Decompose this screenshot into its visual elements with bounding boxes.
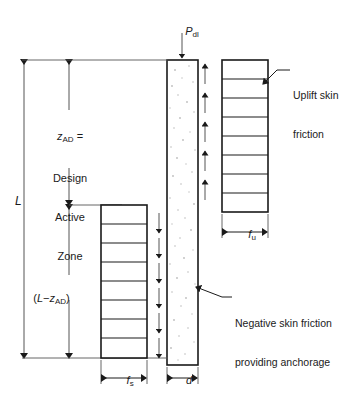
total-length-label: L [15, 195, 22, 208]
active-zone-desc-3: Zone [38, 250, 102, 263]
anchorage-length-label: (L−zAD) [21, 279, 70, 321]
dead-load-label: Pdl [173, 12, 199, 54]
negative-annotation-line-1: Negative skin friction [235, 317, 332, 330]
pile-diameter-label: d [168, 361, 198, 400]
negative-annotation-line-2: providing anchorage [235, 356, 332, 369]
uplift-annotation-line-2: friction [293, 128, 339, 141]
negative-annotation: Negative skin friction providing anchora… [235, 291, 332, 395]
uplift-friction-block [222, 60, 268, 212]
active-zone-label: zAD = Design Active Zone [38, 104, 102, 289]
active-zone-symbol-line: zAD = [38, 130, 102, 146]
anchorage-friction-block [101, 205, 147, 358]
leader-negative-annotation [196, 287, 232, 297]
active-zone-desc-1: Design [38, 172, 102, 185]
figure-canvas: Pdl L zAD = Design Active Zone (L−zAD) f… [0, 0, 357, 410]
pile-outline [167, 60, 198, 365]
uplift-annotation-line-1: Uplift skin [293, 89, 339, 102]
skin-friction-label: fs [104, 361, 144, 403]
active-zone-desc-2: Active [38, 211, 102, 224]
uplift-annotation: Uplift skin friction [293, 63, 339, 167]
pile-column [167, 60, 198, 365]
uplift-friction-label: fu [226, 215, 266, 257]
